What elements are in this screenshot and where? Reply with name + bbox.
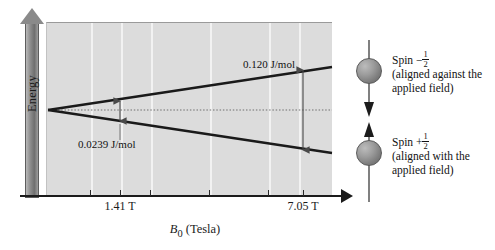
spin-state-legend: Spin −12 (aligned against the applied fi… xyxy=(344,0,495,250)
plot-area xyxy=(46,22,332,195)
fraction-denominator: 2 xyxy=(422,141,428,151)
spin-description-line2: applied field) xyxy=(392,164,454,176)
spin-description-line1: (aligned against the xyxy=(392,68,482,80)
gridline xyxy=(121,23,123,195)
energy-gap-label-high-field: 0.120 J/mol xyxy=(243,58,295,70)
energy-gap-label-low-field: 0.0239 J/mol xyxy=(78,138,135,150)
spin-fraction-one-half: 12 xyxy=(422,132,428,150)
field-axis-title-unit: (Tesla) xyxy=(186,222,221,236)
field-axis-tick xyxy=(209,190,210,196)
energy-axis: Energy xyxy=(20,8,44,198)
field-axis-title: B0 (Tesla) xyxy=(145,222,245,239)
spin-state-plus-half-text: Spin +12 (aligned with the applied field… xyxy=(392,132,495,177)
field-axis-tick xyxy=(90,190,91,196)
energy-axis-arrowhead xyxy=(20,8,44,24)
nuclear-spin-sphere xyxy=(356,58,382,84)
gridline xyxy=(210,23,212,195)
field-axis-tick xyxy=(120,190,121,196)
gridline xyxy=(299,23,301,195)
nuclear-spin-sphere xyxy=(356,140,382,166)
field-axis-line xyxy=(20,195,350,197)
spin-description-line2: applied field) xyxy=(392,82,454,94)
fraction-numerator: 1 xyxy=(422,132,428,141)
zeeman-splitting-figure: 0.0239 J/mol 0.120 J/mol Energy 1.41 T 7… xyxy=(0,0,495,250)
spin-label-prefix: Spin + xyxy=(392,136,422,148)
field-axis-tick xyxy=(303,190,304,196)
field-axis-title-subscript: 0 xyxy=(177,228,182,239)
spin-fraction-one-half: 12 xyxy=(422,50,428,68)
spin-label-prefix: Spin − xyxy=(392,54,422,66)
energy-axis-label: Energy xyxy=(25,54,40,134)
field-axis-tick xyxy=(268,190,269,196)
field-axis-ticklabel-2: 7.05 T xyxy=(268,199,338,214)
field-axis-ticklabel-1: 1.41 T xyxy=(85,199,155,214)
gridline xyxy=(269,23,271,195)
field-axis-tick xyxy=(150,190,151,196)
spin-description-line1: (aligned with the xyxy=(392,150,470,162)
spin-state-minus-half-text: Spin −12 (aligned against the applied fi… xyxy=(392,50,495,95)
fraction-denominator: 2 xyxy=(422,59,428,69)
fraction-numerator: 1 xyxy=(422,50,428,59)
gridline xyxy=(151,23,153,195)
gridline xyxy=(91,23,93,195)
